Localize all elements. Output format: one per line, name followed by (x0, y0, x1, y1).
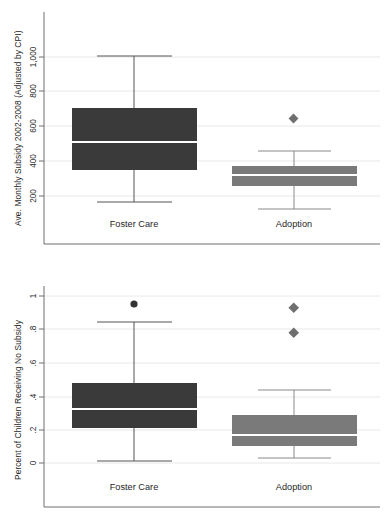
box-top-foster-care (72, 56, 197, 202)
boxplot-bottom-svg: 1 .8 .6 .4 .2 0 (0, 262, 389, 525)
y-axis-bottom (39, 286, 44, 507)
outlier-marker-bottom-adoption-093 (288, 302, 299, 313)
y-tick-label-bottom-0: 0 (29, 460, 38, 465)
x-category-label-top-foster-care: Foster Care (110, 219, 159, 229)
outlier-marker-top-adoption-655 (289, 114, 299, 124)
y-tick-label-top-200: 200 (29, 189, 38, 203)
panel-subsidy-amount: Ave. Monthly Subsidy 2002-2008 (Adjusted… (0, 0, 389, 262)
boxplot-top-svg: 1,000 800 600 400 200 (0, 0, 389, 262)
y-tick-label-top-1000: 1,000 (29, 46, 38, 67)
box-bottom-foster-care (72, 300, 197, 461)
y-tick-label-top-400: 400 (29, 154, 38, 168)
y-axis-top (39, 12, 44, 244)
x-category-label-bottom-adoption: Adoption (276, 482, 312, 492)
y-tick-label-bottom-08: .8 (29, 325, 38, 332)
box-bottom-adoption (232, 302, 357, 458)
y-tick-label-top-800: 800 (29, 84, 38, 98)
x-category-label-top-adoption: Adoption (276, 219, 312, 229)
y-tick-label-bottom-02: .2 (29, 426, 38, 433)
y-tick-label-bottom-1: 1 (29, 293, 38, 298)
y-tick-label-bottom-06: .6 (29, 359, 38, 366)
y-tick-label-bottom-04: .4 (29, 393, 38, 400)
two-panel-boxplot-figure: Ave. Monthly Subsidy 2002-2008 (Adjusted… (0, 0, 389, 525)
outlier-marker-bottom-foster-care-095 (130, 300, 137, 307)
panel-percent-no-subsidy: Percent of Children Receiving No Subsidy (0, 262, 389, 525)
y-tick-label-top-600: 600 (29, 119, 38, 133)
x-category-label-bottom-foster-care: Foster Care (110, 482, 159, 492)
